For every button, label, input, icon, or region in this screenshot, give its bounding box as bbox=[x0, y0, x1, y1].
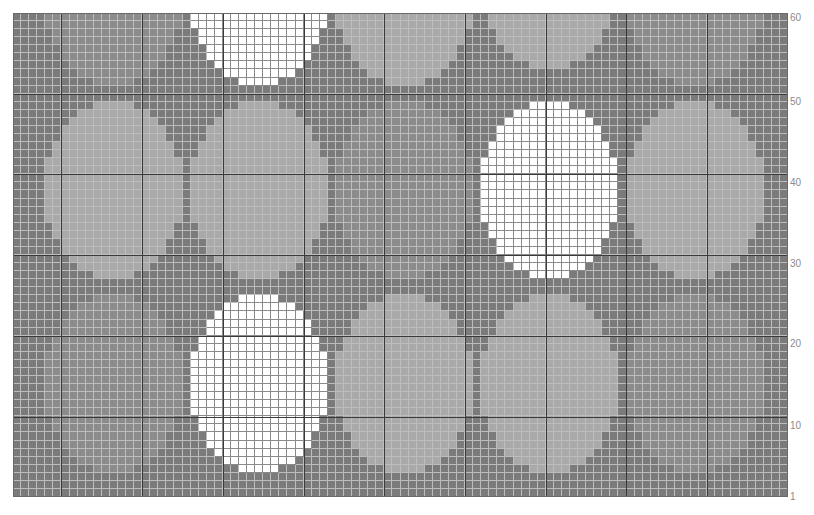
stitch-cell bbox=[191, 287, 199, 295]
stitch-cell bbox=[481, 376, 489, 384]
stitch-cell bbox=[546, 21, 554, 29]
stitch-cell bbox=[368, 102, 376, 110]
stitch-cell bbox=[764, 441, 772, 449]
stitch-cell bbox=[215, 457, 223, 465]
stitch-cell bbox=[748, 78, 756, 86]
stitch-cell bbox=[142, 37, 150, 45]
stitch-cell bbox=[45, 126, 53, 134]
stitch-cell bbox=[538, 279, 546, 287]
stitch-cell bbox=[239, 134, 247, 142]
stitch-cell bbox=[126, 441, 134, 449]
stitch-cell bbox=[449, 449, 457, 457]
stitch-cell bbox=[263, 465, 271, 473]
stitch-cell bbox=[150, 368, 158, 376]
stitch-cell bbox=[183, 489, 191, 497]
stitch-cell bbox=[473, 37, 481, 45]
stitch-cell bbox=[731, 94, 739, 102]
stitch-cell bbox=[166, 166, 174, 174]
stitch-cell bbox=[748, 303, 756, 311]
stitch-cell bbox=[368, 279, 376, 287]
stitch-cell bbox=[699, 69, 707, 77]
stitch-cell bbox=[699, 207, 707, 215]
stitch-cell bbox=[683, 21, 691, 29]
stitch-cell bbox=[126, 247, 134, 255]
stitch-cell bbox=[45, 473, 53, 481]
stitch-cell bbox=[772, 37, 780, 45]
stitch-cell bbox=[320, 295, 328, 303]
stitch-cell bbox=[263, 199, 271, 207]
stitch-cell bbox=[764, 432, 772, 440]
stitch-cell bbox=[118, 328, 126, 336]
stitch-cell bbox=[667, 320, 675, 328]
stitch-cell bbox=[296, 432, 304, 440]
stitch-cell bbox=[279, 287, 287, 295]
stitch-cell bbox=[401, 336, 409, 344]
stitch-cell bbox=[417, 142, 425, 150]
stitch-cell bbox=[174, 271, 182, 279]
stitch-cell bbox=[166, 449, 174, 457]
stitch-cell bbox=[207, 126, 215, 134]
stitch-cell bbox=[207, 94, 215, 102]
stitch-cell bbox=[433, 78, 441, 86]
stitch-cell bbox=[279, 182, 287, 190]
stitch-cell bbox=[231, 102, 239, 110]
stitch-cell bbox=[78, 287, 86, 295]
stitch-cell bbox=[425, 207, 433, 215]
stitch-cell bbox=[110, 78, 118, 86]
stitch-cell bbox=[287, 336, 295, 344]
stitch-cell bbox=[562, 29, 570, 37]
stitch-cell bbox=[94, 376, 102, 384]
stitch-cell bbox=[312, 45, 320, 53]
stitch-cell bbox=[142, 352, 150, 360]
stitch-cell bbox=[320, 360, 328, 368]
stitch-cell bbox=[570, 465, 578, 473]
stitch-cell bbox=[239, 29, 247, 37]
stitch-cell bbox=[610, 360, 618, 368]
stitch-cell bbox=[538, 94, 546, 102]
stitch-cell bbox=[183, 360, 191, 368]
stitch-cell bbox=[239, 86, 247, 94]
stitch-cell bbox=[667, 78, 675, 86]
stitch-cell bbox=[296, 279, 304, 287]
stitch-cell bbox=[126, 465, 134, 473]
stitch-cell bbox=[618, 311, 626, 319]
stitch-cell bbox=[578, 465, 586, 473]
stitch-cell bbox=[94, 408, 102, 416]
stitch-cell bbox=[602, 344, 610, 352]
stitch-cell bbox=[166, 368, 174, 376]
stitch-cell bbox=[312, 263, 320, 271]
stitch-cell bbox=[417, 279, 425, 287]
stitch-cell bbox=[37, 207, 45, 215]
stitch-cell bbox=[586, 158, 594, 166]
stitch-cell bbox=[142, 441, 150, 449]
stitch-cell bbox=[707, 182, 715, 190]
stitch-cell bbox=[546, 166, 554, 174]
stitch-cell bbox=[748, 158, 756, 166]
stitch-cell bbox=[417, 45, 425, 53]
stitch-cell bbox=[61, 473, 69, 481]
stitch-cell bbox=[279, 352, 287, 360]
stitch-cell bbox=[651, 432, 659, 440]
stitch-cell bbox=[199, 271, 207, 279]
stitch-cell bbox=[287, 368, 295, 376]
stitch-cell bbox=[578, 376, 586, 384]
stitch-cell bbox=[45, 279, 53, 287]
stitch-cell bbox=[635, 303, 643, 311]
stitch-cell bbox=[13, 311, 21, 319]
stitch-cell bbox=[86, 311, 94, 319]
stitch-cell bbox=[384, 473, 392, 481]
stitch-cell bbox=[368, 69, 376, 77]
stitch-cell bbox=[522, 223, 530, 231]
stitch-cell bbox=[522, 13, 530, 21]
stitch-cell bbox=[497, 247, 505, 255]
stitch-cell bbox=[287, 94, 295, 102]
stitch-cell bbox=[126, 78, 134, 86]
stitch-cell bbox=[183, 86, 191, 94]
stitch-cell bbox=[425, 489, 433, 497]
stitch-cell bbox=[134, 37, 142, 45]
stitch-cell bbox=[13, 320, 21, 328]
stitch-cell bbox=[723, 287, 731, 295]
stitch-cell bbox=[707, 78, 715, 86]
stitch-cell bbox=[183, 166, 191, 174]
stitch-cell bbox=[271, 392, 279, 400]
